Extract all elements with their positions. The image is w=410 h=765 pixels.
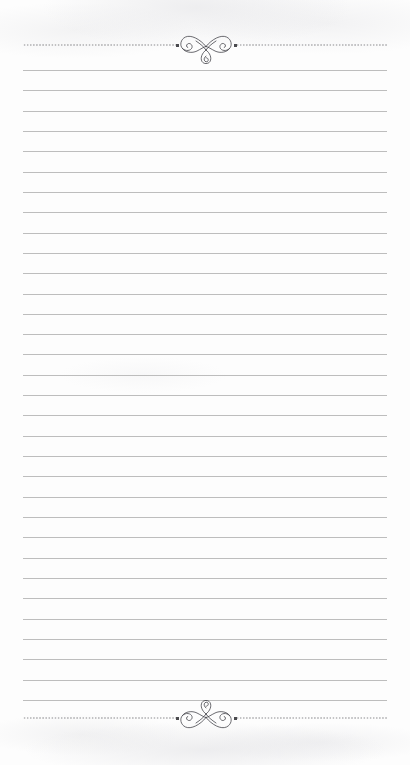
stationery-page <box>0 0 410 765</box>
bottom-dotted-rule <box>0 717 410 719</box>
dot-cap-right <box>234 44 237 47</box>
dot-cap-left <box>176 717 179 720</box>
writing-area[interactable] <box>23 52 387 707</box>
dotted-run-left <box>23 44 177 46</box>
dotted-run-right <box>236 44 387 46</box>
dot-cap-left <box>176 44 179 47</box>
dotted-run-right <box>236 717 387 719</box>
dot-cap-right <box>234 717 237 720</box>
dotted-run-left <box>23 717 177 719</box>
top-dotted-rule <box>0 44 410 46</box>
